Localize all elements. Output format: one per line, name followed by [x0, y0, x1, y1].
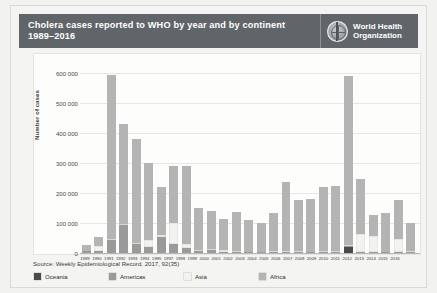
x-axis-tick-label: 2014: [365, 256, 377, 261]
y-axis-tick-label: 300 000: [38, 160, 78, 167]
bar-column: [305, 58, 317, 253]
bar-series-container: [80, 58, 417, 253]
x-axis-tick-label: 2012: [341, 256, 353, 261]
x-axis-tick-label: 2001: [210, 256, 222, 261]
bar-segment-africa: [282, 182, 291, 251]
bar-segment-africa: [157, 187, 166, 235]
bar-segment-africa: [144, 163, 153, 240]
bar-segment-africa: [394, 200, 403, 239]
x-axis-tick-label: 2004: [246, 256, 258, 261]
bar-column: [192, 58, 204, 253]
x-axis-tick-label: 2011: [329, 256, 341, 261]
bar-stack: [244, 220, 253, 253]
bar-segment-africa: [331, 186, 340, 251]
legend-item-africa[interactable]: Africa: [259, 273, 334, 280]
bar-stack: [394, 200, 403, 253]
bar-segment-americas: [331, 252, 340, 253]
bar-stack: [107, 75, 116, 253]
bar-segment-africa: [344, 76, 353, 246]
bar-segment-americas: [82, 251, 91, 253]
legend-item-asia[interactable]: Asia: [184, 273, 259, 280]
bar-stack: [94, 237, 103, 253]
bar-column: [117, 58, 129, 253]
bar-segment-asia: [356, 234, 365, 252]
chart-title-line2: 1989–2016: [28, 31, 320, 43]
x-axis-tick-label: 2010: [317, 256, 329, 261]
y-axis-tick-label: 100 000: [38, 220, 78, 227]
bar-stack: [169, 166, 178, 253]
bar-stack: [119, 124, 128, 253]
legend-label: Asia: [195, 273, 207, 280]
bar-segment-americas: [157, 237, 166, 254]
bar-segment-americas: [269, 252, 278, 253]
bar-column: [267, 58, 279, 253]
x-axis-tick-label: 2006: [270, 256, 282, 261]
bar-column: [330, 58, 342, 253]
source-note: Source: Weekly Epidemiological Record, 2…: [33, 260, 179, 267]
bar-column: [255, 58, 267, 253]
bar-segment-africa: [107, 75, 116, 239]
bar-segment-americas: [169, 244, 178, 253]
bar-segment-asia: [144, 240, 153, 247]
bar-stack: [282, 182, 291, 253]
bar-segment-americas: [94, 251, 103, 253]
bar-column: [317, 58, 329, 253]
bar-segment-americas: [257, 252, 266, 253]
x-axis-tick-label: 2000: [198, 256, 210, 261]
bar-segment-africa: [381, 213, 390, 252]
bar-segment-americas: [144, 247, 153, 253]
bar-column: [367, 58, 379, 253]
bar-column: [80, 58, 92, 253]
bar-column: [342, 58, 354, 253]
bar-segment-americas: [394, 252, 403, 253]
bar-segment-oceania: [344, 247, 353, 253]
bar-stack: [182, 166, 191, 253]
bar-segment-americas: [406, 252, 415, 253]
legend-item-americas[interactable]: Americas: [109, 273, 184, 280]
who-globe-emblem-icon: [327, 21, 348, 42]
bar-segment-africa: [219, 219, 228, 251]
bar-segment-africa: [182, 166, 191, 244]
bar-segment-asia: [169, 223, 178, 244]
legend-item-oceania[interactable]: Oceania: [34, 273, 109, 280]
bar-segment-africa: [356, 179, 365, 235]
bar-column: [355, 58, 367, 253]
bar-stack: [269, 213, 278, 253]
who-logo-line1: World Health: [353, 22, 402, 31]
bar-segment-americas: [232, 252, 241, 253]
bar-stack: [344, 76, 353, 253]
plot-area: Number of cases 0100 000200 000300 00040…: [33, 53, 421, 255]
bar-segment-africa: [232, 212, 241, 251]
bar-stack: [406, 223, 415, 253]
chart-legend: OceaniaAmericasAsiaAfrica: [34, 273, 334, 280]
bar-segment-africa: [94, 237, 103, 245]
x-axis-tick-label: 2005: [258, 256, 270, 261]
bar-segment-americas: [182, 248, 191, 253]
bar-segment-americas: [119, 225, 128, 254]
bar-stack: [381, 213, 390, 253]
x-axis-tick-label: 2002: [222, 256, 234, 261]
y-axis-tick-label: 400 000: [38, 130, 78, 137]
y-axis-ticks: 0100 000200 000300 000400 000500 000600 …: [34, 54, 78, 254]
bar-stack: [132, 139, 141, 253]
bar-column: [405, 58, 417, 253]
bar-column: [180, 58, 192, 253]
x-axis-tick-label: 2016: [389, 256, 401, 261]
bar-segment-americas: [356, 252, 365, 253]
header-title-block: Cholera cases reported to WHO by year an…: [19, 14, 320, 48]
bar-column: [142, 58, 154, 253]
bar-segment-americas: [107, 240, 116, 254]
who-logo-line2: Organization: [353, 31, 402, 40]
bar-stack: [219, 219, 228, 253]
x-axis-tick-label: 1999: [186, 256, 198, 261]
legend-swatch: [109, 273, 116, 280]
bar-segment-africa: [207, 211, 216, 249]
bar-segment-africa: [294, 200, 303, 251]
x-axis-tick-label: 2013: [353, 256, 365, 261]
legend-label: Oceania: [45, 273, 68, 280]
x-axis-tick-label: 2015: [377, 256, 389, 261]
chart-header: Cholera cases reported to WHO by year an…: [19, 14, 418, 48]
bar-segment-americas: [381, 252, 390, 253]
bar-column: [205, 58, 217, 253]
bar-segment-americas: [132, 244, 141, 253]
